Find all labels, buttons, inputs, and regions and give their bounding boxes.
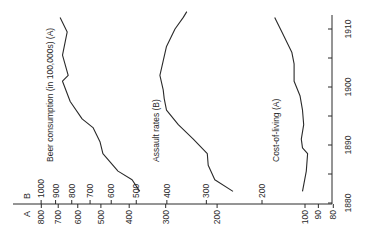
a-tick-label: 80 bbox=[328, 210, 338, 220]
assault-rates-line bbox=[160, 12, 233, 192]
b-tick-label: 200 bbox=[257, 184, 267, 198]
b-tick-label: 800 bbox=[67, 184, 77, 198]
axes bbox=[13, 15, 332, 204]
beer-consumption-line bbox=[60, 17, 140, 191]
a-tick-label: 700 bbox=[53, 210, 63, 224]
year-tick-label: 1910 bbox=[343, 19, 353, 38]
b-tick-label: 900 bbox=[51, 184, 61, 198]
a-tick-label: 300 bbox=[161, 210, 171, 224]
a-tick-label: 600 bbox=[73, 210, 83, 224]
b-tick-label: 400 bbox=[162, 184, 172, 198]
year-tick-label: 1890 bbox=[343, 135, 353, 154]
b-tick-label: 1000 bbox=[36, 179, 46, 198]
a-tick-label: 500 bbox=[96, 210, 106, 224]
a-tick-label: 400 bbox=[124, 210, 134, 224]
series-label-beer: Beer consumption (in 100,000s) (A) bbox=[45, 28, 55, 162]
a-axis-ticks: 8007006005004003002001009080 bbox=[36, 204, 338, 224]
b-tick-label: 700 bbox=[85, 184, 95, 198]
a-tick-label: 200 bbox=[212, 210, 222, 224]
axis-a-label: A bbox=[22, 211, 32, 217]
b-tick-label: 600 bbox=[106, 184, 116, 198]
chart: 1880189019001910 80070060050040030020010… bbox=[0, 0, 369, 237]
a-tick-label: 90 bbox=[313, 210, 323, 220]
year-tick-label: 1880 bbox=[343, 193, 353, 212]
b-tick-label: 300 bbox=[201, 184, 211, 198]
series-label-assault: Assault rates (B) bbox=[151, 99, 161, 162]
series-label-cost: Cost-of-living (A) bbox=[271, 99, 281, 162]
a-tick-label: 800 bbox=[36, 210, 46, 224]
year-tick-label: 1900 bbox=[343, 77, 353, 96]
a-tick-label: 100 bbox=[300, 210, 310, 224]
axis-b-label: B bbox=[22, 193, 32, 199]
